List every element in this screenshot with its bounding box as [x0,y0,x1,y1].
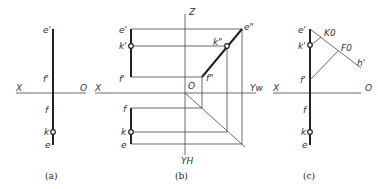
label-o-b: O [188,81,195,91]
point-k-prime-b [129,44,134,49]
label-k-a: k [44,127,50,137]
label-x-c: X [272,83,280,93]
label-K0-c: K0 [324,28,336,38]
point-k-b [129,130,134,135]
label-e-prime-c: e' [298,25,306,35]
caption-b: (b) [175,171,188,181]
projection-diagrams: X O e' f' f k e (a) X O Z Yw YH e' k' [0,0,378,189]
point-k-c [308,130,313,135]
label-f-a: f [45,105,50,115]
label-k-prime-b: k' [119,41,127,51]
diagram-b: X O Z Yw YH e' k' f' f k e e" k" f" (b) [94,7,263,181]
label-o-a: O [80,83,87,93]
label-f-b: f [123,104,128,114]
label-f-dprime-b: f" [206,73,213,83]
label-yh-b: YH [181,156,193,166]
label-e-prime-a: e' [43,25,51,35]
label-x-a: X [15,83,23,93]
label-f-prime-b: f' [119,74,125,84]
point-k-dprime-b [225,44,230,49]
label-f-c: f [303,105,308,115]
label-x-b: X [94,83,102,93]
label-k-prime-c: k' [298,41,306,51]
label-e-dprime-b: e" [244,22,254,32]
point-k-prime-c [308,43,313,48]
label-yw-b: Yw [250,83,263,93]
label-z-b: Z [188,7,196,17]
label-e-prime-b: e' [119,25,127,35]
label-e-c: e [302,140,308,150]
line-f-F0-c [310,51,338,80]
label-f-prime-a: f' [43,74,49,84]
diagonal-45-b [185,93,245,147]
label-F0-c: F0 [341,43,352,53]
diagram-a: X O e' f' f k e (a) [15,25,87,181]
label-k-b: k [121,127,127,137]
label-k-c: k [301,127,307,137]
caption-a: (a) [45,171,57,181]
point-k-a [51,130,56,135]
label-h-prime-c: h' [357,58,365,68]
label-o-c: O [365,83,372,93]
diagram-c: X O e' k' f' f k e K0 F0 h' (c) [272,25,372,181]
label-e-b: e [121,140,127,150]
label-e-a: e [45,140,51,150]
label-f-prime-c: f' [300,75,306,85]
label-k-dprime-b: k" [213,37,222,47]
caption-c: (c) [303,171,315,181]
